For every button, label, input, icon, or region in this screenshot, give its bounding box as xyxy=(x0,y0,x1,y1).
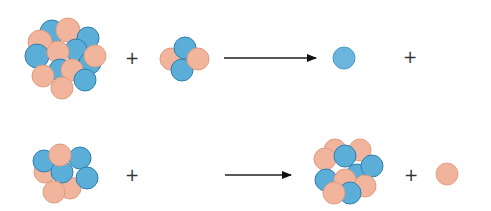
plus-sign-2a: + xyxy=(125,167,139,184)
plus-sign-1b: + xyxy=(403,49,417,66)
product-proton xyxy=(436,163,458,185)
reactant-large-nucleus xyxy=(25,18,106,99)
reactant-nucleus-2 xyxy=(33,144,98,203)
product-neutron xyxy=(333,47,355,69)
plus-sign-1a: + xyxy=(125,50,139,67)
reactant-helium-nucleus xyxy=(160,37,209,81)
plus-sign-2b: + xyxy=(404,167,418,184)
product-nucleus-2 xyxy=(314,139,383,204)
